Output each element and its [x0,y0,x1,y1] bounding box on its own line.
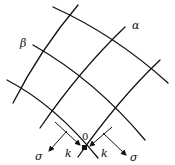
label-alpha: α [132,19,140,32]
origin-point [82,145,87,150]
alpha-line-middle [40,27,125,128]
slip-line-diagram: α β 0 k k σ σ [0,0,175,165]
label-origin: 0 [82,131,88,142]
label-k-right: k [101,147,108,160]
alpha-line-right [78,60,160,157]
label-k-left: k [65,147,72,160]
label-sigma-right: σ [130,151,138,164]
label-sigma-left: σ [35,150,43,163]
label-beta: β [19,37,26,50]
beta-line-top [53,7,168,83]
